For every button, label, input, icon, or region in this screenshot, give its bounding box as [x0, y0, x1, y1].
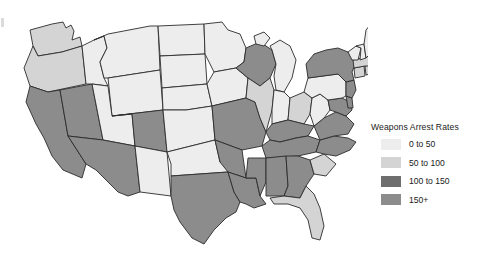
- legend-swatch-0: [381, 139, 401, 150]
- state-AL[interactable]: [266, 156, 288, 196]
- legend-item-0[interactable]: 0 to 50: [371, 137, 479, 151]
- legend-title: Weapons Arrest Rates: [371, 122, 479, 132]
- page-edge-artifact: [1, 18, 4, 27]
- state-NE[interactable]: [162, 84, 212, 110]
- map-legend: Weapons Arrest Rates 0 to 50 50 to 100 1…: [371, 122, 479, 211]
- state-SC[interactable]: [310, 154, 336, 176]
- legend-swatch-3: [381, 194, 401, 205]
- state-RI[interactable]: [365, 65, 368, 75]
- legend-item-2[interactable]: 100 to 150: [371, 174, 479, 188]
- legend-item-1[interactable]: 50 to 100: [371, 156, 479, 170]
- legend-swatch-2: [381, 176, 401, 187]
- legend-label-0: 0 to 50: [409, 139, 435, 149]
- legend-swatch-1: [381, 157, 401, 168]
- state-MN[interactable]: [204, 22, 246, 72]
- choropleth-figure: Weapons Arrest Rates 0 to 50 50 to 100 1…: [0, 0, 482, 257]
- us-map: [8, 6, 368, 251]
- state-TX[interactable]: [171, 172, 240, 244]
- state-OH[interactable]: [288, 92, 312, 124]
- state-IN[interactable]: [272, 90, 290, 124]
- state-WY[interactable]: [108, 70, 163, 116]
- state-NJ[interactable]: [346, 80, 356, 98]
- legend-label-3: 150+: [409, 195, 428, 205]
- legend-item-3[interactable]: 150+: [371, 193, 479, 207]
- state-ND[interactable]: [158, 24, 205, 56]
- legend-label-1: 50 to 100: [409, 158, 445, 168]
- state-OR[interactable]: [24, 46, 86, 92]
- state-SD[interactable]: [160, 54, 207, 88]
- state-NM[interactable]: [135, 146, 171, 196]
- legend-label-2: 100 to 150: [409, 176, 450, 186]
